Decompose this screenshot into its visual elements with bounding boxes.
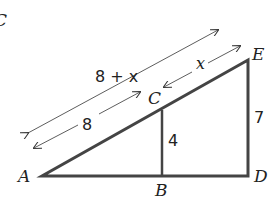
corner-fragment-label: C: [0, 10, 7, 30]
point-c-label: C: [148, 88, 161, 108]
point-a-label: A: [16, 166, 30, 186]
dimension-arrow-ce-left: [164, 72, 192, 87]
label-bc: 4: [168, 131, 178, 150]
point-e-label: E: [251, 44, 265, 64]
dimension-arrow-ac-right: [99, 92, 140, 114]
dimension-arrow-ac-left: [34, 125, 78, 148]
label-ae: 8 + x: [95, 67, 138, 86]
triangle-ade: [42, 60, 248, 176]
label-ac: 8: [82, 115, 92, 134]
label-ce: x: [196, 54, 205, 73]
similar-triangles-diagram: C A B C D E 8 + x 8 x 4 7: [0, 0, 277, 198]
point-d-label: D: [253, 166, 268, 186]
dimension-arrow-ce-right: [208, 46, 240, 63]
label-de: 7: [254, 108, 264, 127]
point-b-label: B: [154, 180, 168, 198]
